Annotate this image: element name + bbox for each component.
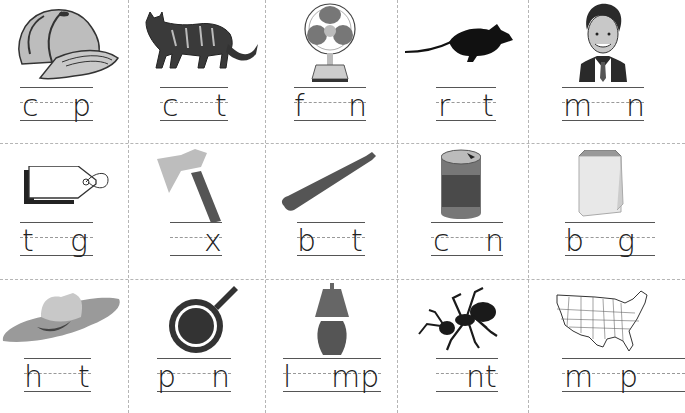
lamp-icon [313, 283, 351, 355]
first-letter: m [563, 91, 592, 121]
last-letter: t [215, 91, 227, 121]
first-letter: r [438, 91, 450, 121]
last-letter: x [204, 226, 222, 256]
last-letter: p [72, 91, 91, 121]
writing-lines: c p [20, 87, 93, 129]
writing-lines: m p [562, 358, 685, 400]
rat-icon [405, 22, 515, 64]
first-letter: b [565, 226, 584, 256]
last-letter: g [70, 226, 88, 256]
last-letter: nt [466, 362, 497, 392]
first-letter: t [22, 226, 34, 256]
last-letter: p [619, 362, 638, 392]
column-divider [528, 0, 529, 413]
first-letter: l [283, 362, 291, 392]
writing-lines: b g [565, 222, 655, 264]
last-letter: n [485, 226, 504, 256]
cap-icon [8, 4, 120, 82]
first-letter: m [564, 362, 593, 392]
row-divider [0, 143, 685, 144]
column-divider [128, 0, 129, 413]
writing-lines: t g [20, 222, 93, 264]
writing-lines: p n [157, 358, 231, 400]
writing-lines: c t [160, 87, 228, 129]
column-divider [265, 0, 266, 413]
last-letter: g [617, 226, 635, 256]
writing-lines: l mp [283, 358, 381, 400]
last-letter: t [482, 91, 494, 121]
hat-icon [1, 291, 121, 345]
tag-icon [24, 166, 110, 208]
can-icon [441, 149, 481, 221]
last-letter: t [78, 362, 90, 392]
writing-lines: m n [562, 87, 644, 129]
last-letter: t [351, 226, 363, 256]
cat-icon [142, 10, 260, 72]
bag-icon [577, 150, 625, 218]
first-letter: p [157, 362, 176, 392]
first-letter: f [294, 91, 305, 121]
writing-lines: nt [436, 358, 498, 400]
column-divider [397, 0, 398, 413]
last-letter: n [626, 91, 645, 121]
first-letter: c [433, 226, 450, 256]
ax-icon [155, 147, 225, 225]
writing-lines: c n [431, 222, 503, 264]
bat-icon [280, 150, 380, 212]
writing-lines: h t [24, 358, 91, 400]
ant-icon [417, 284, 503, 352]
writing-lines: r t [436, 87, 496, 129]
last-letter: n [348, 91, 367, 121]
first-letter: c [162, 91, 179, 121]
fan-icon [302, 3, 358, 83]
first-letter: h [24, 362, 43, 392]
pan-icon [168, 284, 240, 354]
worksheet: c p c t [0, 0, 685, 413]
writing-lines: x [170, 222, 222, 264]
writing-lines: b t [297, 222, 365, 264]
writing-lines: f n [294, 87, 366, 129]
man-icon [573, 2, 633, 82]
first-letter: c [22, 91, 39, 121]
map-icon [555, 289, 657, 353]
first-letter: b [297, 226, 316, 256]
last-letter: mp [331, 362, 379, 392]
last-letter: n [211, 362, 230, 392]
row-divider [0, 279, 685, 280]
